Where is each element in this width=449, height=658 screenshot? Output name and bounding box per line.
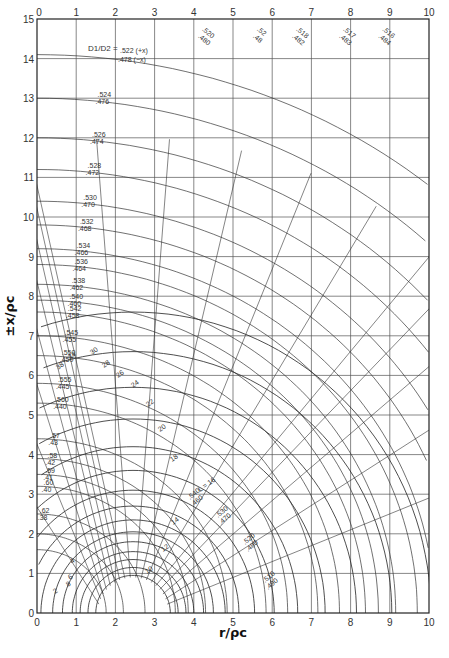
- ratio-label-top: .540: [69, 293, 83, 300]
- ratio-label-bottom: .472: [86, 169, 100, 176]
- y-tick-label: 10: [23, 212, 35, 223]
- x-tick-label-top: 2: [113, 7, 119, 18]
- x-tick-label: 9: [387, 617, 393, 628]
- ratio-label-bottom: .445: [56, 383, 70, 390]
- ratio-label-top: .526: [92, 131, 106, 138]
- L-curve-label: 20: [157, 423, 167, 433]
- ratio-label-top: .532: [80, 218, 94, 225]
- ratio-minus-label: .478 (−x): [118, 56, 146, 64]
- ratio-label-bottom: .440: [53, 403, 67, 410]
- x-tick-label-top: 6: [269, 7, 275, 18]
- ratio-label-top: .536: [74, 258, 88, 265]
- x-tick-label-top: 3: [152, 7, 158, 18]
- y-tick-label: 2: [28, 529, 34, 540]
- ratio-label-top: .528: [88, 162, 102, 169]
- ratio-label-top: .560: [55, 396, 69, 403]
- chart-canvas: 012345678910 012345678910 01234567891011…: [0, 0, 449, 658]
- L-curve-label: 2: [52, 587, 59, 595]
- y-tick-label: 6: [28, 370, 34, 381]
- x-tick-label: 8: [348, 617, 354, 628]
- x-tick-label-top: 10: [423, 7, 435, 18]
- ratio-label-bottom: .458: [66, 312, 80, 319]
- L-curve-label: 26: [115, 369, 125, 379]
- x-tick-label: 6: [269, 617, 275, 628]
- ratio-label-bottom: .40: [42, 486, 52, 493]
- x-tick-label: 3: [152, 617, 158, 628]
- ratio-label-bottom: .43: [48, 439, 58, 446]
- x-tick-label-top: 5: [230, 7, 236, 18]
- y-tick-label: 11: [24, 172, 35, 183]
- ratio-label-top: .60: [44, 479, 54, 486]
- ratio-label-bottom: .476: [96, 98, 110, 105]
- y-tick-label: 12: [23, 133, 35, 144]
- y-tick-label: 8: [28, 291, 34, 302]
- x-tick-label-top: 0: [36, 7, 42, 18]
- ratio-label-top: .62: [40, 507, 50, 514]
- grid-lines: [37, 19, 429, 613]
- x-tick-label-top: 9: [387, 7, 393, 18]
- y-tick-label: 3: [28, 489, 34, 500]
- ratio-label-bottom: .474: [90, 138, 104, 145]
- ratio-label-bottom: .42: [45, 459, 55, 466]
- x-tick-label-top: 1: [73, 7, 79, 18]
- ratio-label-bottom: .38: [38, 514, 48, 521]
- x-tick-label: 2: [113, 617, 119, 628]
- ratio-label-top: .542: [68, 305, 82, 312]
- ratio-label-bottom: .464: [72, 265, 86, 272]
- x-tick-label-top: 7: [309, 7, 315, 18]
- ratio-label-bottom: .462: [70, 284, 84, 291]
- y-tick-label: 15: [23, 14, 35, 25]
- ratio-label-bottom: .466: [75, 249, 89, 256]
- ratio-header-label: D1/D2 =: [88, 44, 118, 53]
- x-tick-label: 4: [191, 617, 197, 628]
- ratio-label-top: .59: [45, 467, 55, 474]
- y-tick-label: 0: [28, 608, 34, 619]
- ratio-label-top: .538: [72, 277, 86, 284]
- y-tick-label: 5: [28, 410, 34, 421]
- x-tick-label: 1: [73, 617, 79, 628]
- ratio-label-top: .545: [65, 329, 79, 336]
- x-axis-title: r/ρc: [219, 625, 247, 640]
- y-tick-label: 14: [23, 54, 35, 65]
- ratio-label-top: .530: [83, 194, 97, 201]
- ratio-label-top: .555: [58, 376, 72, 383]
- curve-annotations: D1/D2 =.522 (+x).478 (−x).524.476.526.47…: [38, 25, 397, 594]
- ratio-label-top: .58: [47, 452, 57, 459]
- ratio-label-top: .534: [77, 242, 91, 249]
- x-tick-label: 10: [423, 617, 435, 628]
- L-curve-label: 28: [101, 359, 111, 369]
- ratio-label-top: .57: [50, 432, 60, 439]
- ratio-label-bottom: .468: [78, 225, 92, 232]
- y-tick-label: 4: [28, 450, 34, 461]
- L-curve-label: 8: [65, 580, 72, 588]
- x-axis-ticks-top: 012345678910: [36, 7, 435, 18]
- x-tick-label-top: 4: [191, 7, 197, 18]
- ratio-label-bottom: .470: [81, 201, 95, 208]
- ratio-label-top: .524: [98, 91, 112, 98]
- y-axis-ticks: 0123456789101112131415: [23, 14, 35, 619]
- y-tick-label: 7: [28, 331, 34, 342]
- x-tick-label: 0: [34, 617, 40, 628]
- L-curve-label: 14: [170, 516, 180, 526]
- y-tick-label: 13: [23, 93, 35, 104]
- ratio-plus-label: .522 (+x): [120, 47, 148, 55]
- x-tick-label: 7: [309, 617, 315, 628]
- y-tick-label: 9: [28, 252, 34, 263]
- ratio-label-bottom: .455: [63, 336, 77, 343]
- x-tick-label-top: 8: [348, 7, 354, 18]
- y-tick-label: 1: [28, 568, 34, 579]
- y-axis-title: ±x/ρc: [2, 295, 17, 336]
